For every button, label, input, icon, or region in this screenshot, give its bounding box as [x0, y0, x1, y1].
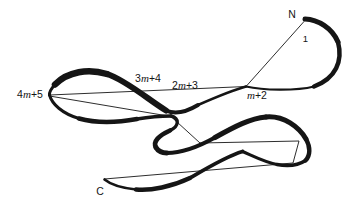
label-n-terminus: N [288, 8, 296, 20]
label-4m-plus-5: 4m+5 [17, 88, 43, 100]
ribbon-chain [49, 19, 339, 190]
ribbon-right-loop-descent [266, 117, 306, 139]
ribbon-strand-m2-saddle [198, 87, 246, 106]
ribbon-strand-to-hook [137, 116, 171, 119]
ribbon-diagram-figure: N 1 m+2 2m+3 3m+4 4m+5 C [0, 0, 351, 209]
label-2m-plus-3-variable: m [178, 79, 186, 91]
chord-c-to-right-loop [105, 163, 294, 179]
label-3m-plus-4-variable: m [141, 72, 149, 84]
ribbon-saddle-dip [166, 105, 198, 112]
ribbon-c-tip [105, 180, 137, 190]
label-m-plus-2-suffix: +2 [255, 89, 267, 101]
label-m-plus-2: m+2 [247, 89, 267, 101]
chord-hook-diagonal [171, 117, 200, 144]
ribbon-hook-turn [170, 116, 177, 131]
ribbon-inner-arch [243, 152, 278, 165]
label-2m-plus-3: 2m+3 [172, 79, 198, 91]
label-3m-plus-4-suffix: +4 [149, 72, 161, 84]
ribbon-c-sweep [136, 178, 190, 190]
label-4m-plus-5-suffix: +5 [31, 88, 43, 100]
ribbon-right-loop-cap [306, 139, 310, 161]
chord-4m5-to-m2 [50, 87, 247, 96]
ribbon-rise-right [167, 138, 215, 154]
ribbon-4m5-loop-bottom [79, 119, 137, 122]
chord-right-loop-connector [293, 141, 299, 163]
ribbon-n-loop-top [305, 19, 338, 42]
label-m-plus-2-variable: m [247, 89, 255, 101]
ribbon-4m5-loop-tip [49, 85, 55, 96]
label-2m-plus-3-suffix: +3 [186, 79, 198, 91]
chord-n-to-m2 [246, 22, 304, 87]
label-3m-plus-4: 3m+4 [135, 72, 161, 84]
label-c-terminus: C [96, 185, 104, 197]
ribbon-4m5-loop-top [55, 71, 107, 84]
residue-labels: N 1 m+2 2m+3 3m+4 4m+5 C [17, 8, 308, 197]
label-4m-plus-5-variable: m [23, 88, 31, 100]
ribbon-n-loop-right [314, 42, 340, 87]
ribbon-right-loop-top [215, 117, 266, 138]
protein-ribbon-svg: N 1 m+2 2m+3 3m+4 4m+5 C [0, 0, 351, 209]
label-residue-1: 1 [303, 33, 308, 44]
ribbon-descend-to-c [190, 152, 243, 179]
ribbon-hook-curl [155, 131, 170, 148]
chord-right-loop-upper [200, 141, 299, 143]
